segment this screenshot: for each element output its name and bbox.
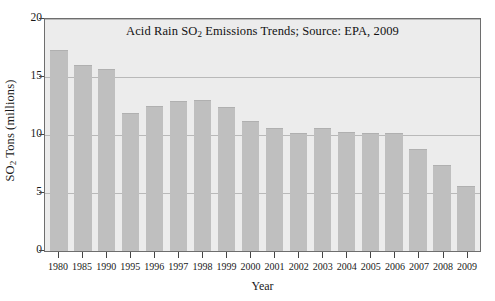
x-tick-label-2000: 2000 (239, 260, 263, 276)
x-tick-slot (239, 252, 263, 259)
y-axis-title-subscript: 2 (9, 160, 19, 165)
chart-title-before: Acid Rain SO (126, 24, 197, 38)
x-tick-mark-1995 (130, 252, 131, 258)
x-tick-label-1999: 1999 (214, 260, 238, 276)
x-tick-mark-2003 (322, 252, 323, 258)
bar-2007 (409, 149, 426, 251)
x-tick-mark-2001 (274, 252, 275, 258)
y-axis-title-before: SO (4, 165, 18, 181)
x-tick-mark-1996 (154, 252, 155, 258)
y-axis-title-after: Tons (millions) (4, 79, 18, 160)
bar-2009 (457, 186, 474, 251)
bar-1997 (170, 101, 187, 251)
plot-area (44, 18, 481, 252)
bar-slot (167, 19, 191, 251)
x-tick-mark-1999 (226, 252, 227, 258)
bar-1990 (98, 69, 115, 251)
bar-2002 (290, 133, 307, 251)
x-tick-label-2003: 2003 (311, 260, 335, 276)
x-tick-label-1980: 1980 (46, 260, 70, 276)
x-tick-mark-2009 (467, 252, 468, 258)
bar-2008 (433, 165, 450, 251)
bar-slot (430, 19, 454, 251)
x-axis-title: Year (44, 279, 481, 294)
bar-2004 (338, 132, 355, 251)
x-tick-label-2009: 2009 (455, 260, 479, 276)
x-axis-tick-labels: 1980198519901995199619971998199920002001… (44, 260, 481, 276)
x-tick-label-2006: 2006 (383, 260, 407, 276)
x-tick-slot (311, 252, 335, 259)
bar-2006 (385, 133, 402, 251)
x-tick-mark-1990 (106, 252, 107, 258)
x-tick-label-1998: 1998 (190, 260, 214, 276)
x-tick-slot (142, 252, 166, 259)
x-axis-tick-marks (44, 252, 481, 259)
x-tick-mark-2006 (394, 252, 395, 258)
x-tick-slot (455, 252, 479, 259)
bar-2001 (266, 128, 283, 251)
bar-slot (286, 19, 310, 251)
x-tick-label-1995: 1995 (118, 260, 142, 276)
bar-slot (334, 19, 358, 251)
y-axis-title: SO2 Tons (millions) (0, 0, 22, 260)
x-tick-slot (263, 252, 287, 259)
x-tick-slot (118, 252, 142, 259)
x-tick-mark-1985 (82, 252, 83, 258)
x-tick-label-1996: 1996 (142, 260, 166, 276)
x-tick-slot (94, 252, 118, 259)
bar-slot (358, 19, 382, 251)
x-tick-label-2008: 2008 (431, 260, 455, 276)
bar-slot (143, 19, 167, 251)
x-tick-label-2007: 2007 (407, 260, 431, 276)
x-tick-mark-1997 (178, 252, 179, 258)
x-tick-mark-2005 (370, 252, 371, 258)
bar-1980 (50, 50, 67, 251)
x-tick-mark-1998 (202, 252, 203, 258)
bar-slot (454, 19, 478, 251)
x-tick-mark-1980 (58, 252, 59, 258)
x-tick-slot (383, 252, 407, 259)
bar-1985 (74, 65, 91, 251)
x-tick-mark-2002 (298, 252, 299, 258)
bar-slot (310, 19, 334, 251)
bar-1998 (194, 100, 211, 251)
bar-2003 (314, 128, 331, 251)
x-tick-label-1985: 1985 (70, 260, 94, 276)
x-tick-mark-2004 (346, 252, 347, 258)
x-tick-slot (287, 252, 311, 259)
bar-series (45, 19, 480, 251)
x-tick-slot (46, 252, 70, 259)
bar-slot (95, 19, 119, 251)
x-tick-slot (166, 252, 190, 259)
x-tick-mark-2007 (418, 252, 419, 258)
bar-slot (406, 19, 430, 251)
x-tick-label-2004: 2004 (335, 260, 359, 276)
bar-slot (262, 19, 286, 251)
bar-slot (191, 19, 215, 251)
bar-slot (71, 19, 95, 251)
x-tick-label-1990: 1990 (94, 260, 118, 276)
chart-figure: SO2 Tons (millions) 05101520 Acid Rain S… (0, 0, 495, 301)
x-tick-label-1997: 1997 (166, 260, 190, 276)
x-tick-slot (407, 252, 431, 259)
x-tick-slot (70, 252, 94, 259)
x-tick-mark-2008 (443, 252, 444, 258)
bar-1999 (218, 107, 235, 251)
x-tick-label-2005: 2005 (359, 260, 383, 276)
bar-1996 (146, 106, 163, 251)
bar-1995 (122, 113, 139, 251)
x-tick-slot (431, 252, 455, 259)
bar-slot (215, 19, 239, 251)
x-tick-label-2002: 2002 (287, 260, 311, 276)
x-tick-label-2001: 2001 (263, 260, 287, 276)
bar-slot (119, 19, 143, 251)
bar-slot (47, 19, 71, 251)
bar-2005 (362, 133, 379, 251)
bar-2000 (242, 121, 259, 251)
x-tick-mark-2000 (250, 252, 251, 258)
x-tick-slot (214, 252, 238, 259)
x-tick-slot (335, 252, 359, 259)
bar-slot (239, 19, 263, 251)
chart-title-after: Emissions Trends; Source: EPA, 2009 (202, 24, 399, 38)
x-tick-slot (359, 252, 383, 259)
